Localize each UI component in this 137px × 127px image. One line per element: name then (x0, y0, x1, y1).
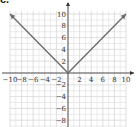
y-axis-arrow-icon (66, 2, 70, 6)
y-tick-label: 6 (62, 34, 67, 42)
x-tick-label: 6 (101, 76, 106, 84)
x-tick-label: −10 (3, 76, 18, 84)
y-tick-label: −6 (56, 105, 67, 113)
y-tick-label: 4 (62, 46, 67, 54)
y-tick-label: −4 (56, 93, 67, 101)
absolute-value-graph: −10−8−6−4−2246810−8−6−4−2246810 (0, 0, 137, 127)
x-axis-arrow-icon (130, 71, 134, 75)
x-tick-label: −6 (28, 76, 39, 84)
y-tick-label: −8 (56, 117, 66, 125)
x-tick-label: 2 (77, 76, 81, 84)
y-tick-label: 8 (62, 22, 66, 30)
y-tick-label: −2 (56, 81, 66, 89)
y-tick-label: 2 (62, 58, 66, 66)
x-tick-label: 10 (122, 76, 131, 84)
x-tick-label: −8 (16, 76, 26, 84)
y-tick-label: 10 (57, 11, 66, 19)
x-tick-label: 8 (112, 76, 116, 84)
x-tick-label: −4 (40, 76, 51, 84)
x-tick-label: 4 (89, 76, 94, 84)
